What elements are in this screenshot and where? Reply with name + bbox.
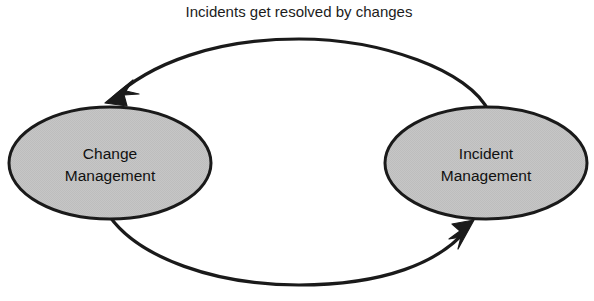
top-arrowhead-icon	[105, 80, 139, 106]
change-management-label-line1: Change	[83, 145, 137, 162]
bottom-arrow-line	[110, 217, 468, 285]
incident-management-label-line2: Management	[441, 167, 532, 184]
incident-management-ellipse[interactable]	[385, 107, 587, 219]
top-arrow-line	[110, 39, 489, 112]
node-incident-management[interactable]: Incident Management	[385, 107, 587, 219]
connector-top-arrow	[105, 39, 489, 112]
node-change-management[interactable]: Change Management	[9, 107, 211, 219]
cycle-diagram-svg: Incidents get resolved by changes Change…	[0, 0, 594, 301]
diagram-caption: Incidents get resolved by changes	[186, 3, 413, 20]
change-management-label-line2: Management	[65, 167, 156, 184]
incident-management-label-line1: Incident	[459, 145, 514, 162]
connector-bottom-arrow	[110, 217, 474, 285]
change-management-ellipse[interactable]	[9, 107, 211, 219]
diagram-canvas: Incidents get resolved by changes Change…	[0, 0, 594, 301]
